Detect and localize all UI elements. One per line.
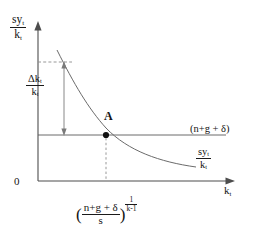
y-axis-title-fraction: syt kt bbox=[10, 13, 26, 42]
equilibrium-point-label: A bbox=[104, 110, 113, 122]
steady-state-value-label: ( n+g + δ s ) 1 k-1 bbox=[76, 196, 137, 226]
origin-label: 0 bbox=[14, 176, 20, 187]
savings-curve bbox=[57, 50, 196, 167]
savings-curve-label: syt kt bbox=[196, 146, 211, 172]
x-axis-title: kt bbox=[224, 185, 231, 197]
steady-state-numerator: n+g + δ bbox=[82, 202, 120, 215]
growth-gap-numerator: Δk bbox=[28, 73, 40, 84]
curve-label-numerator: sy bbox=[198, 146, 207, 157]
solow-growth-diagram: syt kt Δkt kt A (n+g + δ) syt kt 0 kt ( … bbox=[0, 0, 260, 234]
curve-label-denominator-sub: t bbox=[205, 164, 207, 171]
break-even-line-label: (n+g + δ) bbox=[190, 124, 230, 135]
steady-state-denominator: s bbox=[82, 215, 120, 227]
growth-gap-label: Δkt kt bbox=[26, 73, 44, 99]
savings-curve-label-fraction: syt kt bbox=[196, 146, 211, 172]
growth-gap-numerator-sub: t bbox=[40, 77, 42, 84]
curve-label-numerator-sub: t bbox=[207, 150, 209, 157]
growth-gap-denominator-sub: t bbox=[37, 91, 39, 98]
steady-state-fraction: n+g + δ s bbox=[82, 202, 120, 226]
growth-gap-arrow bbox=[61, 61, 66, 136]
steady-state-exponent-denominator: k-1 bbox=[125, 205, 137, 213]
y-axis-title-numerator: sy bbox=[12, 13, 22, 25]
y-axis-arrowhead bbox=[34, 21, 41, 31]
growth-gap-fraction: Δkt kt bbox=[26, 73, 44, 99]
steady-state-exponent: 1 k-1 bbox=[125, 196, 137, 212]
y-axis-title-numerator-sub: t bbox=[22, 19, 24, 27]
equilibrium-point-a bbox=[103, 132, 109, 138]
y-axis-title-denominator-sub: t bbox=[20, 34, 22, 42]
x-axis-title-sub: t bbox=[230, 190, 232, 197]
y-axis-title: syt kt bbox=[10, 13, 26, 42]
